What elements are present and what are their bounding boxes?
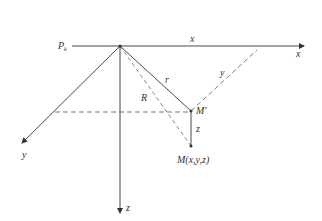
m-prime-label: M' bbox=[195, 105, 207, 116]
y-axis bbox=[22, 46, 120, 143]
origin-label: Pk bbox=[57, 40, 67, 52]
diagram-canvas: Pk x x y z r R y z M' M(x,y,z) bbox=[0, 0, 322, 221]
R-label: R bbox=[140, 92, 147, 103]
r-label: r bbox=[165, 74, 169, 85]
x-axis-label: x bbox=[295, 48, 301, 59]
m-prime-point bbox=[190, 110, 193, 113]
x-top-label: x bbox=[189, 33, 195, 44]
m-point bbox=[190, 145, 193, 148]
y-axis-label: y bbox=[21, 149, 27, 160]
r-segment bbox=[120, 46, 191, 111]
z-segment-label: z bbox=[195, 123, 200, 134]
y-segment-label: y bbox=[219, 67, 225, 78]
m-point-label: M(x,y,z) bbox=[176, 154, 210, 166]
coordinate-diagram: Pk x x y z r R y z M' M(x,y,z) bbox=[0, 0, 322, 221]
R-segment bbox=[120, 46, 191, 146]
z-axis-label: z bbox=[125, 202, 130, 213]
origin-point bbox=[119, 45, 122, 48]
y-projection-dashed bbox=[191, 50, 257, 111]
